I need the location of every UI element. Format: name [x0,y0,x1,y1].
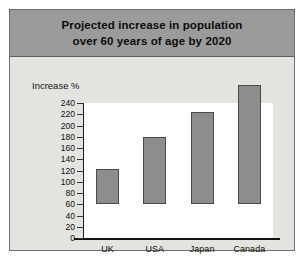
chart-figure: Projected increase in population over 60… [9,9,295,251]
y-tick-label: 60 [66,200,75,208]
y-tick-mark [77,204,83,205]
y-tick-mark [77,238,83,239]
y-tick-label: 80 [66,189,75,197]
y-tick-label: 120 [61,167,75,175]
y-tick-label: 200 [61,122,75,130]
y-tick-mark [77,159,83,160]
y-tick-label: 100 [61,178,75,186]
y-tick-mark [77,182,83,183]
y-tick-label: 140 [61,155,75,163]
y-tick-label: 0 [70,234,75,242]
y-tick-mark [77,171,83,172]
y-tick-label: 180 [61,133,75,141]
bar-japan [191,112,214,204]
chart-title-line-1: Projected increase in population [62,17,243,33]
x-label-usa: USA [146,244,165,254]
y-tick-mark [77,193,83,194]
y-tick-label: 240 [61,99,75,107]
chart-body: Increase % 02040608010012014016018020022… [10,58,294,250]
y-tick-mark [77,126,83,127]
x-label-japan: Japan [190,244,215,254]
bar-canada [238,85,261,204]
y-tick-mark [77,114,83,115]
chart-title-banner: Projected increase in population over 60… [10,10,294,57]
y-tick-mark [77,103,83,104]
x-axis-line [74,238,280,240]
x-label-canada: Canada [234,244,266,254]
bar-usa [143,137,166,204]
y-axis-ticks: 020406080100120140160180200220240 [10,58,83,266]
y-tick-label: 220 [61,110,75,118]
x-label-uk: UK [101,244,114,254]
bar-uk [96,169,119,204]
y-axis-line [83,103,84,239]
y-tick-mark [77,227,83,228]
y-tick-label: 40 [66,212,75,220]
y-tick-mark [77,216,83,217]
chart-title-line-2: over 60 years of age by 2020 [73,33,232,49]
y-tick-mark [77,148,83,149]
y-tick-label: 160 [61,144,75,152]
y-tick-mark [77,137,83,138]
y-tick-label: 20 [66,223,75,231]
